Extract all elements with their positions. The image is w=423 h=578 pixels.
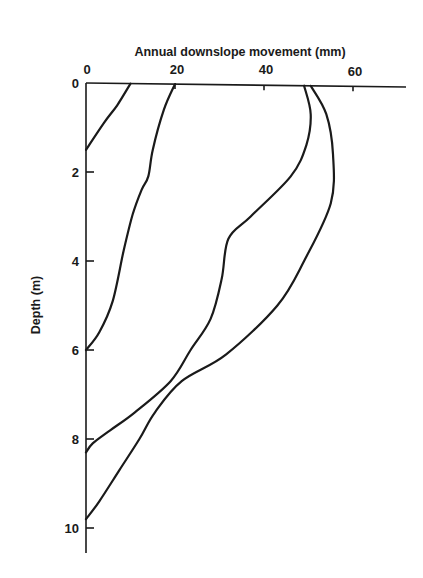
y-tick-label: 4 [72, 254, 80, 269]
curves-group [86, 84, 334, 519]
x-axis-title: Annual downslope movement (mm) [134, 45, 345, 59]
x-tick-label: 40 [259, 62, 273, 77]
depth-movement-chart: Annual downslope movement (mm) 0204060 0… [0, 0, 423, 578]
curve-profile-4 [86, 86, 334, 519]
y-tick-label: 10 [65, 521, 79, 536]
x-tick-label: 20 [170, 62, 184, 77]
curve-profile-2 [86, 84, 175, 350]
y-tick-label: 8 [72, 432, 79, 447]
y-axis-title: Depth (m) [29, 276, 43, 334]
x-axis-ticks: 0204060 [83, 62, 362, 91]
x-tick-label: 0 [83, 62, 90, 77]
y-tick-label: 0 [72, 76, 79, 91]
y-tick-label: 2 [72, 165, 79, 180]
x-tick-label: 60 [348, 64, 362, 79]
x-axis-line [86, 83, 406, 87]
y-tick-label: 6 [72, 343, 79, 358]
curve-profile-1 [86, 84, 131, 150]
